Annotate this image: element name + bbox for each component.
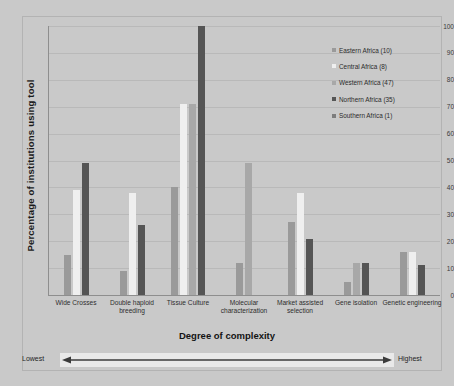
bar [180,104,187,295]
bar [138,225,145,295]
y-axis-title: Percentage of institutions using tool [25,66,36,266]
legend-label: Eastern Africa (10) [339,47,392,54]
bar [73,190,80,295]
bar [400,252,407,295]
bar [129,193,136,295]
legend: Eastern Africa (10)Central Africa (8)Wes… [332,46,437,128]
bar [418,265,425,295]
bar-group [272,26,328,295]
bar [82,163,89,295]
bar-group [104,26,160,295]
legend-swatch-icon [332,97,336,101]
axis-annotation-lowest: Lowest [22,355,44,362]
x-tick-label: Genetic engineering [378,299,446,307]
bar [171,187,178,295]
bar-group [160,26,216,295]
x-axis-line [48,295,440,296]
bar-group [48,26,104,295]
bar [64,255,71,295]
bar [198,26,205,295]
bar [297,193,304,295]
legend-label: Central Africa (8) [339,63,387,70]
legend-item[interactable]: Northern Africa (35) [332,95,437,103]
bar [362,263,369,295]
bar [245,163,252,295]
legend-swatch-icon [332,81,336,85]
legend-swatch-icon [332,64,336,68]
complexity-arrow [60,353,394,367]
bar [306,239,313,295]
legend-swatch-icon [332,114,336,118]
bar [344,282,351,295]
double-headed-arrow-icon [60,353,394,367]
bar [120,271,127,295]
bar [189,104,196,295]
axis-annotation-highest: Highest [398,355,422,362]
legend-item[interactable]: Southern Africa (1) [332,112,437,120]
legend-label: Western Africa (47) [339,79,394,86]
legend-item[interactable]: Eastern Africa (10) [332,46,437,54]
bar [353,263,360,295]
legend-item[interactable]: Central Africa (8) [332,62,437,70]
bar [288,222,295,295]
bar-group [216,26,272,295]
legend-swatch-icon [332,48,336,52]
legend-label: Northern Africa (35) [339,96,395,103]
legend-item[interactable]: Western Africa (47) [332,79,437,87]
bar-chart: 0102030405060708090100 Percentage of ins… [0,0,454,386]
legend-label: Southern Africa (1) [339,112,392,119]
bar [409,252,416,295]
bar [236,263,243,295]
x-axis-title: Degree of complexity [0,330,454,341]
